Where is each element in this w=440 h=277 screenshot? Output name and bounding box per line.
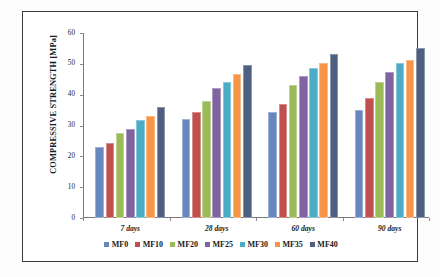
chart-figure: COMPRESSIVE STRENGTH [MPa] 0102030405060…: [0, 0, 440, 277]
legend-label: MF25: [213, 240, 233, 249]
y-axis-tick-label: 40: [47, 90, 75, 98]
x-axis-label-90-days: 90 days: [360, 224, 420, 233]
bar-mf30-28-days[interactable]: [223, 82, 232, 218]
bar-mf40-28-days[interactable]: [243, 65, 252, 218]
legend-swatch-icon: [135, 242, 140, 247]
bar-mf25-90-days[interactable]: [385, 72, 394, 218]
y-axis-tick-label: 10: [47, 183, 75, 191]
bar-mf30-90-days[interactable]: [396, 63, 405, 218]
legend-swatch-icon: [170, 242, 175, 247]
legend-item-mf20[interactable]: MF20: [170, 240, 198, 249]
bar-mf30-7-days[interactable]: [136, 120, 145, 218]
x-axis-label-28-days: 28 days: [187, 224, 247, 233]
bar-mf10-60-days[interactable]: [279, 104, 288, 218]
bar-mf20-60-days[interactable]: [289, 85, 298, 218]
bar-mf35-28-days[interactable]: [233, 74, 242, 218]
legend-label: MF0: [112, 240, 128, 249]
x-axis-tick-mark: [83, 218, 84, 221]
legend-item-mf10[interactable]: MF10: [135, 240, 163, 249]
legend-item-mf35[interactable]: MF35: [275, 240, 303, 249]
bar-mf10-7-days[interactable]: [106, 143, 115, 218]
legend-swatch-icon: [275, 242, 280, 247]
x-axis-tick-mark: [170, 218, 171, 221]
legend-label: MF35: [282, 240, 302, 249]
bar-mf40-60-days[interactable]: [330, 54, 339, 218]
x-axis-label-7-days: 7 days: [100, 224, 160, 233]
bar-mf25-28-days[interactable]: [212, 88, 221, 218]
bar-mf20-7-days[interactable]: [116, 133, 125, 218]
bar-mf0-90-days[interactable]: [355, 110, 364, 218]
legend-swatch-icon: [310, 242, 315, 247]
bar-mf35-60-days[interactable]: [319, 63, 328, 218]
legend-label: MF30: [247, 240, 267, 249]
y-axis-tick-label: 0: [47, 214, 75, 222]
legend-item-mf30[interactable]: MF30: [240, 240, 268, 249]
bar-mf25-7-days[interactable]: [126, 129, 135, 218]
y-axis-title: COMPRESSIVE STRENGTH [MPa]: [49, 17, 58, 193]
legend-item-mf0[interactable]: MF0: [104, 240, 128, 249]
bar-mf20-28-days[interactable]: [202, 101, 211, 218]
legend-item-mf25[interactable]: MF25: [205, 240, 233, 249]
x-axis-tick-mark: [343, 218, 344, 221]
bar-group: [355, 33, 425, 218]
legend-label: MF10: [143, 240, 163, 249]
bar-group: [268, 33, 338, 218]
legend-label: MF40: [317, 240, 337, 249]
bar-mf10-90-days[interactable]: [365, 98, 374, 218]
x-axis-tick-mark: [256, 218, 257, 221]
legend-item-mf40[interactable]: MF40: [310, 240, 338, 249]
bar-mf35-7-days[interactable]: [146, 116, 155, 218]
chart-legend: MF0MF10MF20MF25MF30MF35MF40: [23, 240, 419, 249]
x-axis-label-60-days: 60 days: [273, 224, 333, 233]
bar-mf0-28-days[interactable]: [182, 119, 191, 218]
y-axis-tick-label: 60: [47, 29, 75, 37]
bar-group: [182, 33, 252, 218]
bar-mf40-90-days[interactable]: [416, 48, 425, 218]
bar-mf35-90-days[interactable]: [406, 60, 415, 218]
legend-swatch-icon: [104, 242, 109, 247]
bar-mf10-28-days[interactable]: [192, 112, 201, 218]
bar-mf25-60-days[interactable]: [299, 76, 308, 218]
bar-mf30-60-days[interactable]: [309, 68, 318, 218]
plot-area: [83, 33, 429, 218]
legend-label: MF20: [178, 240, 198, 249]
legend-swatch-icon: [205, 242, 210, 247]
bar-mf0-60-days[interactable]: [268, 112, 277, 218]
x-axis-tick-mark: [429, 218, 430, 221]
bar-mf0-7-days[interactable]: [95, 147, 104, 218]
chart-frame: COMPRESSIVE STRENGTH [MPa] 0102030405060…: [22, 11, 418, 262]
bar-mf20-90-days[interactable]: [375, 82, 384, 218]
bar-group: [95, 33, 165, 218]
legend-swatch-icon: [240, 242, 245, 247]
y-axis-tick-label: 30: [47, 121, 75, 129]
y-axis-tick-label: 20: [47, 152, 75, 160]
bar-mf40-7-days[interactable]: [157, 107, 166, 218]
y-axis-tick-label: 50: [47, 59, 75, 67]
